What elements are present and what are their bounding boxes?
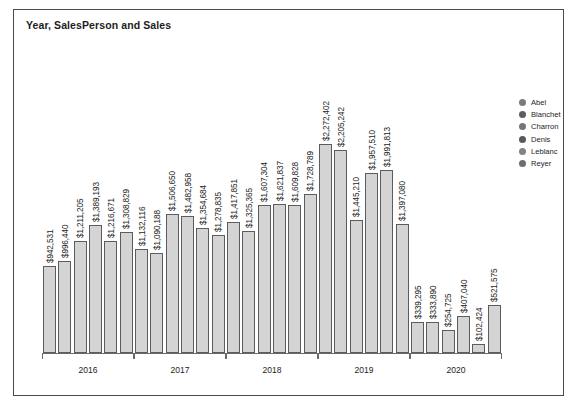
bar-slot: $339,295 <box>410 40 425 353</box>
bar-denis-2017[interactable]: $1,482,958 <box>181 216 194 353</box>
bar-slot: $1,991,813 <box>379 40 394 353</box>
bar-slot: $1,397,080 <box>395 40 410 353</box>
bar-slot: $942,531 <box>42 40 57 353</box>
bar-charron-2016[interactable]: $1,211,205 <box>74 241 87 353</box>
bar-charron-2019[interactable]: $1,445,210 <box>350 220 363 353</box>
legend-item-abel[interactable]: Abel <box>519 96 577 108</box>
bar-abel-2016[interactable]: $942,531 <box>43 266 56 353</box>
bar-value-label: $339,295 <box>413 285 422 318</box>
bar-leblanc-2016[interactable]: $1,216,671 <box>104 241 117 353</box>
bar-value-label: $407,040 <box>459 279 468 312</box>
bar-slot: $1,132,116 <box>134 40 149 353</box>
x-axis-cap-right <box>501 353 502 359</box>
bar-value-label: $1,445,210 <box>352 177 361 217</box>
bar-blanchet-2020[interactable]: $333,890 <box>426 322 439 353</box>
plot-area: $942,531$996,440$1,211,205$1,389,193$1,2… <box>42 40 502 378</box>
bar-value-label: $1,607,304 <box>260 162 269 202</box>
chart-card: Year, SalesPerson and Sales $942,531$996… <box>13 9 564 396</box>
bar-slot: $1,482,958 <box>180 40 195 353</box>
legend-item-charron[interactable]: Charron <box>519 121 577 133</box>
bar-abel-2019[interactable]: $2,272,402 <box>319 144 332 353</box>
legend-item-label: Charron <box>531 122 558 131</box>
legend-item-label: Blanchet <box>531 110 561 119</box>
bar-value-label: $333,890 <box>428 286 437 319</box>
x-axis-category-label: 2018 <box>226 365 318 375</box>
bar-slot: $1,417,851 <box>226 40 241 353</box>
bar-leblanc-2019[interactable]: $1,991,813 <box>380 170 393 353</box>
bar-slot: $1,621,837 <box>272 40 287 353</box>
bar-abel-2020[interactable]: $339,295 <box>411 322 424 353</box>
bar-group-2019: $2,272,402$2,205,242$1,445,210$1,957,510… <box>318 40 410 353</box>
bar-blanchet-2017[interactable]: $1,090,188 <box>150 253 163 353</box>
bar-value-label: $1,728,789 <box>306 151 315 191</box>
bar-slot: $1,216,671 <box>103 40 118 353</box>
bar-reyer-2017[interactable]: $1,278,835 <box>212 235 225 353</box>
bar-slot: $1,445,210 <box>349 40 364 353</box>
x-axis-cap-left <box>42 353 43 359</box>
bar-blanchet-2016[interactable]: $996,440 <box>58 261 71 353</box>
bar-abel-2018[interactable]: $1,417,851 <box>227 222 240 353</box>
legend-swatch-icon <box>519 148 526 155</box>
x-axis-category-label: 2016 <box>42 365 134 375</box>
bar-slot: $1,278,835 <box>211 40 226 353</box>
legend-item-label: Abel <box>531 98 546 107</box>
bar-leblanc-2017[interactable]: $1,354,684 <box>196 228 209 353</box>
bar-denis-2016[interactable]: $1,389,193 <box>89 225 102 353</box>
bar-slot: $2,272,402 <box>318 40 333 353</box>
bar-reyer-2016[interactable]: $1,308,829 <box>120 232 133 353</box>
bar-value-label: $1,389,193 <box>91 182 100 222</box>
legend-item-denis[interactable]: Denis <box>519 133 577 145</box>
bar-slot: $1,389,193 <box>88 40 103 353</box>
bar-group-2016: $942,531$996,440$1,211,205$1,389,193$1,2… <box>42 40 134 353</box>
bar-slot: $521,575 <box>487 40 502 353</box>
bar-value-label: $1,609,828 <box>290 162 299 202</box>
bar-value-label: $1,957,510 <box>367 130 376 170</box>
bar-value-label: $1,090,188 <box>152 210 161 250</box>
legend-item-blanchet[interactable]: Blanchet <box>519 108 577 120</box>
legend-item-leblanc[interactable]: Leblanc <box>519 145 577 157</box>
bar-blanchet-2018[interactable]: $1,325,365 <box>242 231 255 353</box>
legend-item-reyer[interactable]: Reyer <box>519 157 577 169</box>
bar-slot: $333,890 <box>425 40 440 353</box>
bar-value-label: $2,205,242 <box>336 107 345 147</box>
bar-reyer-2020[interactable]: $521,575 <box>488 305 501 353</box>
legend-swatch-icon <box>519 123 526 130</box>
bar-slot: $996,440 <box>57 40 72 353</box>
legend-swatch-icon <box>519 136 526 143</box>
bar-value-label: $1,216,671 <box>106 198 115 238</box>
bar-slot: $1,957,510 <box>364 40 379 353</box>
legend-item-label: Denis <box>531 135 550 144</box>
chart-title: Year, SalesPerson and Sales <box>26 19 171 31</box>
bar-group-2017: $1,132,116$1,090,188$1,506,650$1,482,958… <box>134 40 226 353</box>
bar-leblanc-2020[interactable]: $102,424 <box>472 344 485 353</box>
x-axis-line <box>42 353 502 354</box>
bar-denis-2018[interactable]: $1,621,837 <box>273 204 286 353</box>
bar-value-label: $2,272,402 <box>321 101 330 141</box>
bar-group-2018: $1,417,851$1,325,365$1,607,304$1,621,837… <box>226 40 318 353</box>
bar-value-label: $1,211,205 <box>76 199 85 238</box>
bar-value-label: $942,531 <box>45 230 54 263</box>
x-axis-category-label: 2019 <box>318 365 410 375</box>
bar-charron-2017[interactable]: $1,506,650 <box>166 214 179 353</box>
bar-value-label: $1,278,835 <box>214 192 223 232</box>
bar-charron-2020[interactable]: $254,725 <box>442 330 455 353</box>
bar-blanchet-2019[interactable]: $2,205,242 <box>334 150 347 353</box>
x-axis-category-label: 2017 <box>134 365 226 375</box>
bar-value-label: $1,308,829 <box>122 190 131 230</box>
bar-charron-2018[interactable]: $1,607,304 <box>258 205 271 353</box>
bar-leblanc-2018[interactable]: $1,609,828 <box>288 205 301 353</box>
bar-slot: $1,211,205 <box>73 40 88 353</box>
bar-abel-2017[interactable]: $1,132,116 <box>135 249 148 353</box>
bar-denis-2020[interactable]: $407,040 <box>457 316 470 353</box>
bar-slot: $254,725 <box>441 40 456 353</box>
bar-reyer-2019[interactable]: $1,397,080 <box>396 224 409 353</box>
bar-value-label: $1,991,813 <box>382 127 391 167</box>
bar-reyer-2018[interactable]: $1,728,789 <box>304 194 317 353</box>
bar-value-label: $1,506,650 <box>168 171 177 211</box>
bar-denis-2019[interactable]: $1,957,510 <box>365 173 378 353</box>
legend-swatch-icon <box>519 99 526 106</box>
bar-value-label: $1,325,365 <box>244 188 253 228</box>
bar-slot: $1,325,365 <box>241 40 256 353</box>
bar-slot: $1,308,829 <box>119 40 134 353</box>
bar-slot: $1,609,828 <box>287 40 302 353</box>
